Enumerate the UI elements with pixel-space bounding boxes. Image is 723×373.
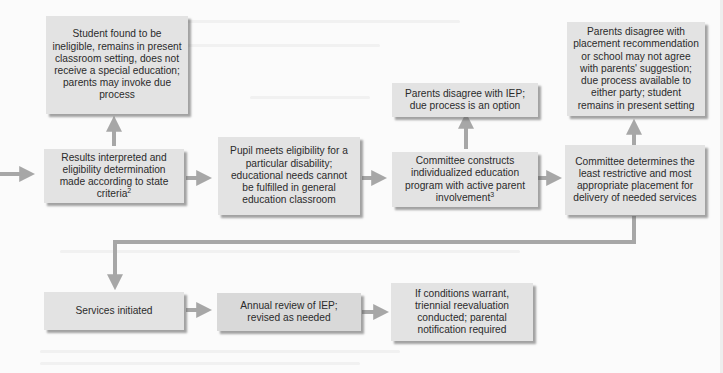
- node-services-initiated: Services initiated: [44, 292, 184, 330]
- node-triennial-reevaluation: If conditions warrant, triennial reevalu…: [391, 283, 533, 341]
- arrow-placement-to-services: [115, 216, 634, 283]
- node-committee-constructs-iep-text: Committee constructs individualized educ…: [398, 155, 532, 204]
- node-annual-review-text: Annual review of IEP; revised as needed: [223, 300, 355, 324]
- node-committee-constructs-iep: Committee constructs individualized educ…: [392, 152, 538, 207]
- node-annual-review: Annual review of IEP; revised as needed: [217, 293, 361, 331]
- node-committee-determines-placement-text: Committee determines the least restricti…: [571, 156, 699, 205]
- node-ineligible: Student found to be ineligible, remains …: [46, 16, 188, 114]
- footnote-marker: 3: [490, 191, 494, 198]
- node-parents-disagree-iep: Parents disagree with IEP; due process i…: [392, 83, 538, 117]
- node-triennial-reevaluation-text: If conditions warrant, triennial reevalu…: [397, 288, 527, 337]
- node-parents-disagree-iep-text: Parents disagree with IEP; due process i…: [398, 88, 532, 112]
- node-ineligible-text: Student found to be ineligible, remains …: [52, 28, 182, 101]
- node-results-interpreted-text: Results interpreted and eligibility dete…: [50, 152, 178, 201]
- node-pupil-meets-eligibility: Pupil meets eligibility for a particular…: [218, 137, 360, 215]
- node-pupil-meets-eligibility-text: Pupil meets eligibility for a particular…: [224, 145, 354, 206]
- footnote-marker: 2: [127, 187, 131, 194]
- node-results-interpreted: Results interpreted and eligibility dete…: [44, 149, 184, 203]
- node-placement-disagreement: Parents disagree with placement recommen…: [567, 22, 705, 116]
- node-committee-determines-placement: Committee determines the least restricti…: [565, 145, 705, 215]
- node-placement-disagreement-text: Parents disagree with placement recommen…: [573, 26, 699, 111]
- node-services-initiated-text: Services initiated: [75, 305, 152, 317]
